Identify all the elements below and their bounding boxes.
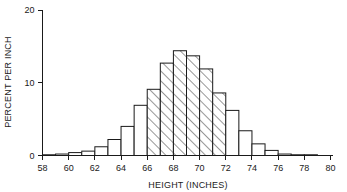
y-tick-label: 10 [24, 78, 34, 88]
y-axis-title: PERCENT PER INCH [3, 36, 13, 128]
histogram-bar [252, 144, 265, 156]
x-tick-label: 62 [90, 163, 100, 173]
histogram-bar-shaded [200, 69, 213, 156]
histogram-bar [226, 110, 239, 155]
histogram-bar [82, 151, 95, 155]
x-tick-label: 76 [273, 163, 283, 173]
histogram-bar [95, 147, 108, 156]
histogram-bar-shaded [173, 51, 186, 156]
x-tick-label: 60 [64, 163, 74, 173]
x-tick-label: 66 [142, 163, 152, 173]
histogram-figure: 586062646668707274767880 01020 HEIGHT (I… [0, 0, 347, 192]
histogram-bar [121, 126, 134, 155]
x-tick-layer: 586062646668707274767880 [37, 156, 335, 173]
y-tick-layer: 01020 [24, 5, 42, 161]
histogram-bar [265, 150, 278, 155]
x-axis-title: HEIGHT (INCHES) [148, 180, 227, 190]
bars-layer [43, 51, 318, 156]
histogram-bar [134, 105, 147, 155]
x-tick-label: 68 [168, 163, 178, 173]
x-tick-label: 64 [116, 163, 126, 173]
histogram-bar [108, 140, 121, 156]
histogram-bar-shaded [147, 89, 160, 155]
histogram-bar-shaded [160, 63, 173, 155]
y-tick-label: 0 [29, 151, 34, 161]
x-tick-label: 58 [37, 163, 47, 173]
histogram-bar [239, 131, 252, 156]
x-tick-label: 78 [299, 163, 309, 173]
x-tick-label: 74 [247, 163, 257, 173]
y-tick-label: 20 [24, 5, 34, 15]
x-tick-label: 70 [195, 163, 205, 173]
histogram-bar-shaded [187, 56, 200, 156]
x-tick-label: 80 [325, 163, 335, 173]
histogram-plot: 586062646668707274767880 01020 HEIGHT (I… [0, 0, 347, 192]
histogram-bar-shaded [213, 93, 226, 156]
x-tick-label: 72 [221, 163, 231, 173]
